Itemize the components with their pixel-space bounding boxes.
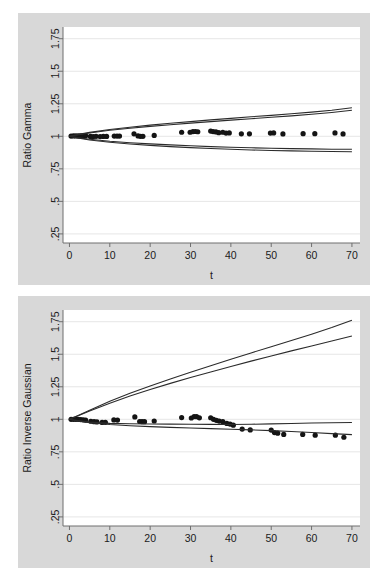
y-tick-label: .75	[49, 161, 61, 176]
y-tick-label: .75	[49, 444, 61, 459]
data-point	[247, 131, 252, 136]
x-tick-label: 50	[265, 532, 277, 544]
data-point	[227, 130, 232, 135]
data-point	[332, 130, 337, 135]
x-tick-label: 40	[225, 249, 237, 261]
y-tick-label: 1	[49, 133, 61, 139]
x-tick-label: 50	[265, 249, 277, 261]
x-tick-label: 40	[225, 532, 237, 544]
x-tick-label: 20	[144, 532, 156, 544]
y-tick-label: 1	[49, 416, 61, 422]
y-axis-title: Ratio Inverse Gaussian	[21, 363, 33, 472]
data-point	[340, 131, 345, 136]
data-point	[179, 130, 184, 135]
x-tick-label: 60	[306, 249, 318, 261]
chart-gamma-canvas: .25.5.7511.251.51.75010203040506070tRati…	[18, 13, 370, 285]
x-tick-label: 20	[144, 249, 156, 261]
y-tick-label: .5	[49, 197, 61, 206]
x-tick-label: 0	[67, 249, 73, 261]
x-tick-label: 30	[185, 532, 197, 544]
data-point	[179, 415, 184, 420]
x-tick-label: 10	[104, 249, 116, 261]
data-point	[117, 133, 122, 138]
data-point	[140, 134, 145, 139]
data-point	[271, 130, 276, 135]
figure-page: .25.5.7511.251.51.75010203040506070tRati…	[0, 0, 388, 580]
data-point	[280, 131, 285, 136]
data-point	[132, 414, 137, 419]
data-point	[341, 435, 346, 440]
data-point	[281, 432, 286, 437]
data-point	[115, 417, 120, 422]
data-point	[239, 131, 244, 136]
y-axis-title: Ratio Gamma	[21, 102, 33, 167]
y-tick-label: 1.5	[49, 347, 61, 362]
y-tick-label: 1.25	[49, 376, 61, 397]
x-tick-label: 10	[104, 532, 116, 544]
y-tick-label: 1.5	[49, 64, 61, 79]
y-tick-label: 1.75	[49, 311, 61, 332]
data-point	[197, 415, 202, 420]
y-tick-label: .25	[49, 226, 61, 241]
x-tick-label: 30	[185, 249, 197, 261]
y-tick-label: .5	[49, 480, 61, 489]
chart-panel-inverse-gaussian: .25.5.7511.251.51.75010203040506070tRati…	[18, 296, 370, 568]
data-point	[104, 134, 109, 139]
data-point	[301, 131, 306, 136]
chart-inverse-gaussian-canvas: .25.5.7511.251.51.75010203040506070tRati…	[18, 296, 370, 568]
data-point	[195, 129, 200, 134]
x-tick-label: 60	[306, 532, 318, 544]
y-tick-label: 1.25	[49, 93, 61, 114]
x-tick-label: 70	[346, 249, 358, 261]
y-tick-label: 1.75	[49, 28, 61, 49]
x-axis-title: t	[210, 269, 213, 281]
x-tick-label: 0	[67, 532, 73, 544]
data-point	[312, 131, 317, 136]
chart-panel-gamma: .25.5.7511.251.51.75010203040506070tRati…	[18, 13, 370, 285]
data-point	[152, 133, 157, 138]
x-tick-label: 70	[346, 532, 358, 544]
x-axis-title: t	[210, 552, 213, 564]
data-point	[152, 418, 157, 423]
y-tick-label: .25	[49, 509, 61, 524]
data-point	[231, 423, 236, 428]
